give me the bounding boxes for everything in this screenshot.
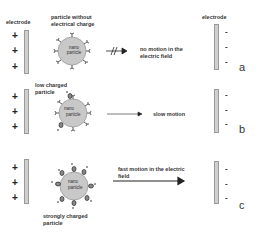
motion-label-c: fast motion in the electric field bbox=[118, 166, 188, 179]
particle-label-c: strongly charged particle bbox=[43, 213, 103, 226]
particle-text-c1: nano bbox=[68, 179, 80, 184]
minus-sign: - bbox=[225, 165, 228, 173]
particle-c-graphic bbox=[0, 0, 258, 235]
minus-sign: - bbox=[225, 194, 228, 202]
minus-sign: - bbox=[225, 180, 228, 188]
row-letter-c: c bbox=[239, 199, 245, 211]
particle-text-c2: particle bbox=[68, 185, 88, 190]
right-electrode-c bbox=[214, 161, 219, 204]
